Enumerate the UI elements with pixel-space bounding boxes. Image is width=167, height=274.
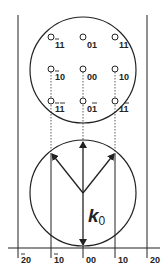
- ewald-construction-diagram: 11 01 11 10 00 10 11 01 11 k0 20 10 00 1…: [0, 0, 167, 274]
- spot-label: 01: [87, 40, 97, 50]
- spot-label: 01: [87, 104, 97, 114]
- axis-labels: 20 10 00 10 20: [21, 254, 160, 265]
- spot: [112, 66, 118, 72]
- spot: [112, 34, 118, 40]
- spot: [112, 98, 118, 104]
- k0-label: k0: [88, 205, 106, 228]
- spot-label: 11: [119, 104, 129, 114]
- spot: [48, 98, 54, 104]
- spot-label: 11: [119, 40, 129, 50]
- axis-tick-label: 20: [150, 255, 160, 265]
- spot: [80, 34, 86, 40]
- spot: [48, 34, 54, 40]
- axis-tick-label: 10: [54, 255, 64, 265]
- spot: [48, 66, 54, 72]
- diffracted-arrow-left: [52, 154, 83, 193]
- spot-label: 11: [55, 40, 65, 50]
- axis-tick-label: 00: [86, 255, 96, 265]
- diffracted-arrow-right: [83, 154, 114, 193]
- spot-label: 10: [55, 72, 65, 82]
- spot-label: 11: [55, 104, 65, 114]
- spot: [80, 66, 86, 72]
- spot-label: 00: [87, 72, 97, 82]
- spot: [80, 98, 86, 104]
- axis-tick-label: 10: [118, 255, 128, 265]
- axis-tick-label: 20: [21, 255, 31, 265]
- spot-label: 10: [119, 72, 129, 82]
